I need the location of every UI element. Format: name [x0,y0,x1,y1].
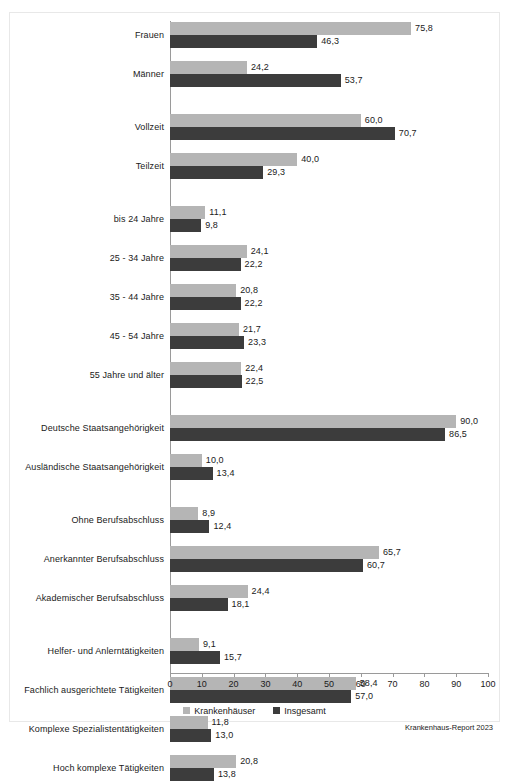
bar-value-label: 53,7 [345,74,363,87]
bar-group: Männer24,253,7 [10,61,499,87]
bar-insgesamt [170,219,201,232]
bar-value-label: 22,2 [245,258,263,271]
bar-insgesamt [170,297,241,310]
bar-krankenhaeuser [170,362,241,375]
bar-value-label: 10,0 [206,454,224,467]
bar-row: 9,8 [10,219,499,232]
axis-tick [202,673,203,677]
bar-krankenhaeuser [170,206,205,219]
bar-insgesamt [170,598,228,611]
bar-row: 24,4 [10,585,499,598]
bar-krankenhaeuser [170,454,202,467]
bar-krankenhaeuser [170,61,247,74]
source-caption: Krankenhaus-Report 2023 [405,723,493,732]
bar-group: 25 - 34 Jahre24,122,2 [10,245,499,271]
bar-row: 12,4 [10,520,499,533]
bar-row: 65,7 [10,546,499,559]
bar-insgesamt [170,258,241,271]
bar-value-label: 90,0 [460,415,478,428]
axis-tick-label: 50 [324,679,334,690]
bar-group: 45 - 54 Jahre21,723,3 [10,323,499,349]
bar-krankenhaeuser [170,415,456,428]
axis-tick [393,673,394,677]
bar-value-label: 23,3 [248,336,266,349]
bar-group: 35 - 44 Jahre20,822,2 [10,284,499,310]
axis-tick [488,673,489,677]
bar-value-label: 8,9 [202,507,215,520]
chart-figure: Frauen75,846,3Männer24,253,7Vollzeit60,0… [9,12,500,722]
bar-krankenhaeuser [170,638,199,651]
bar-insgesamt [170,166,263,179]
bar-row: 23,3 [10,336,499,349]
bar-value-label: 24,2 [251,61,269,74]
bar-krankenhaeuser [170,284,236,297]
bar-group: Helfer- und Anlerntätigkeiten9,115,7 [10,638,499,664]
bar-group: Teilzeit40,029,3 [10,153,499,179]
bar-value-label: 46,3 [321,35,339,48]
bar-value-label: 9,1 [203,638,216,651]
bar-group: Ohne Berufsabschluss8,912,4 [10,507,499,533]
bar-row: 46,3 [10,35,499,48]
bar-insgesamt [170,127,395,140]
bar-krankenhaeuser [170,114,361,127]
bar-row: 9,1 [10,638,499,651]
bar-krankenhaeuser [170,323,239,336]
bar-insgesamt [170,467,213,480]
axis-tick [297,673,298,677]
legend-item-krankenhaeuser[interactable]: Krankenhäuser [183,706,255,716]
bar-row: 53,7 [10,74,499,87]
bar-value-label: 60,0 [365,114,383,127]
bar-row: 75,8 [10,22,499,35]
bar-row: 29,3 [10,166,499,179]
bar-group: Hoch komplexe Tätigkeiten20,813,8 [10,755,499,781]
bar-value-label: 60,7 [367,559,385,572]
bar-value-label: 11,8 [212,716,229,729]
bar-insgesamt [170,559,363,572]
bar-row: 70,7 [10,127,499,140]
axis-tick [456,673,457,677]
bar-insgesamt [170,375,242,388]
bar-row: 10,0 [10,454,499,467]
bar-value-label: 70,7 [399,127,417,140]
bar-group: Frauen75,846,3 [10,22,499,48]
bar-value-label: 20,8 [240,755,258,768]
bar-row: 86,5 [10,428,499,441]
legend-item-insgesamt[interactable]: Insgesamt [273,706,326,716]
axis-tick [424,673,425,677]
bar-group: Ausländische Staatsangehörigkeit10,013,4 [10,454,499,480]
bar-value-label: 22,4 [245,362,263,375]
bar-row: 22,2 [10,258,499,271]
bar-insgesamt [170,651,220,664]
bar-krankenhaeuser [170,153,297,166]
bar-krankenhaeuser [170,716,208,729]
axis-tick [329,673,330,677]
bar-insgesamt [170,768,214,781]
bar-value-label: 13,4 [217,467,235,480]
bar-row: 11,1 [10,206,499,219]
bar-insgesamt [170,690,351,703]
bar-row: 20,8 [10,755,499,768]
legend-label: Insgesamt [284,706,326,716]
bar-value-label: 65,7 [383,546,401,559]
axis-tick-label: 40 [292,679,302,690]
bar-value-label: 15,7 [224,651,242,664]
bar-group: Anerkannter Berufsabschluss65,760,7 [10,546,499,572]
bar-row: 15,7 [10,651,499,664]
bar-row: 90,0 [10,415,499,428]
bar-row: 24,1 [10,245,499,258]
bar-row: 8,9 [10,507,499,520]
bar-row: 40,0 [10,153,499,166]
bar-krankenhaeuser [170,546,379,559]
bar-row: 13,4 [10,467,499,480]
bar-value-label: 13,8 [218,768,236,781]
legend-swatch-icon [273,707,280,714]
bar-insgesamt [170,428,445,441]
bar-value-label: 11,1 [209,206,226,219]
axis-tick-label: 10 [197,679,207,690]
bar-insgesamt [170,74,341,87]
bar-value-label: 29,3 [267,166,285,179]
axis-tick-label: 0 [167,679,172,690]
bar-value-label: 24,4 [252,585,270,598]
bar-value-label: 22,5 [246,375,264,388]
bar-value-label: 9,8 [205,219,218,232]
